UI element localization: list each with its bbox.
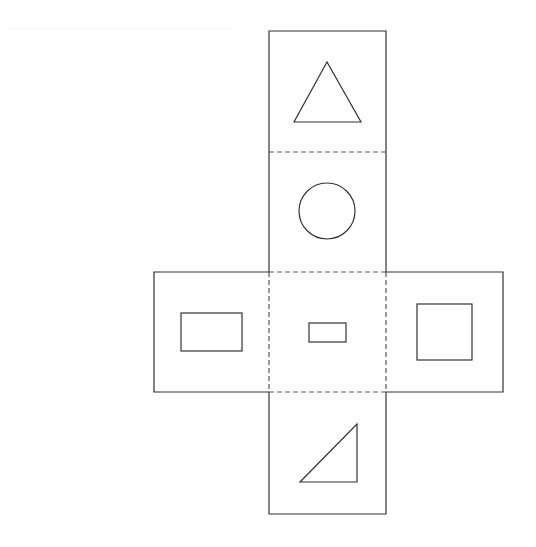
small-rectangle-icon <box>309 323 346 342</box>
square-icon <box>417 304 472 360</box>
right-triangle-icon <box>300 424 357 482</box>
triangle-icon <box>294 62 361 122</box>
circle-icon <box>299 183 355 239</box>
cube-net-diagram <box>0 0 536 547</box>
wide-rectangle-icon <box>181 313 242 351</box>
